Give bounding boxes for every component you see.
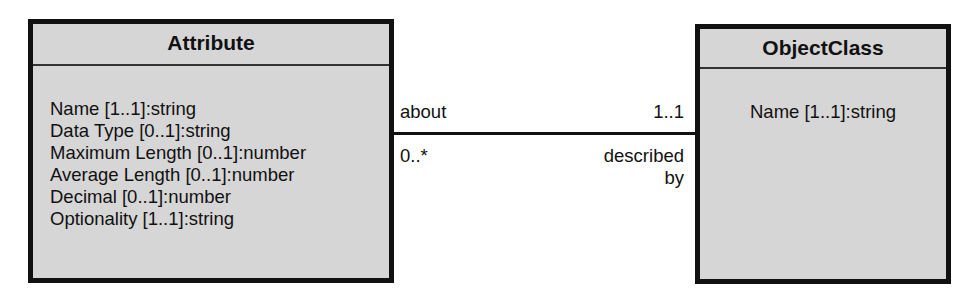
attribute-class-header: Attribute bbox=[33, 24, 389, 66]
attribute-class-name: Attribute bbox=[167, 31, 255, 54]
role-label-by: by bbox=[664, 167, 684, 189]
objectclass-class-header: ObjectClass bbox=[700, 29, 946, 69]
attribute-item: Data Type [0..1]:string bbox=[50, 120, 306, 142]
objectclass-class-name: ObjectClass bbox=[762, 36, 883, 59]
multiplicity-label-objectclass-end: 1..1 bbox=[653, 101, 684, 123]
attribute-item: Average Length [0..1]:number bbox=[50, 164, 306, 186]
association-line bbox=[393, 132, 696, 135]
multiplicity-label-attribute-end: 0..* bbox=[400, 145, 428, 167]
attribute-item: Decimal [0..1]:number bbox=[50, 186, 306, 208]
objectclass-class-box: ObjectClass Name [1..1]:string bbox=[695, 24, 951, 284]
attribute-class-box: Attribute Name [1..1]:string Data Type [… bbox=[28, 19, 394, 283]
attribute-item: Maximum Length [0..1]:number bbox=[50, 142, 306, 164]
role-label-about: about bbox=[400, 101, 446, 123]
attribute-item: Name [1..1]:string bbox=[50, 98, 306, 120]
attribute-class-attributes: Name [1..1]:string Data Type [0..1]:stri… bbox=[50, 98, 306, 230]
attribute-item: Optionality [1..1]:string bbox=[50, 208, 306, 230]
role-label-described: described bbox=[604, 145, 684, 167]
attribute-item: Name [1..1]:string bbox=[700, 101, 946, 123]
objectclass-class-attributes: Name [1..1]:string bbox=[700, 101, 946, 123]
